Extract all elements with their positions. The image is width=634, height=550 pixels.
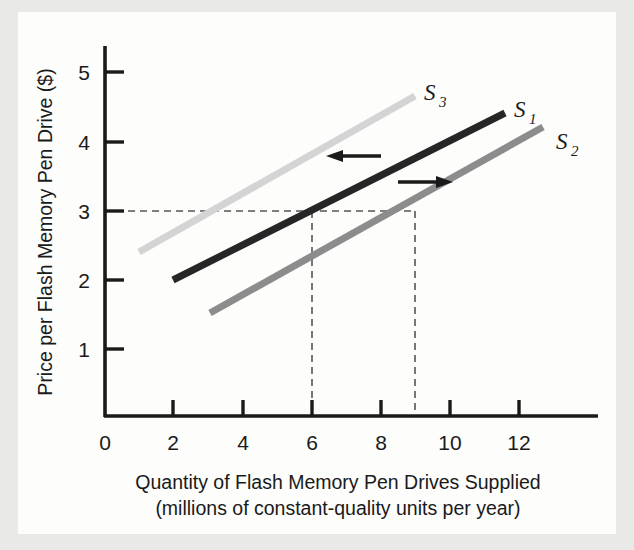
curve-label-s2-subscript: 2 — [571, 143, 579, 159]
x-tick-label-8: 8 — [375, 431, 387, 454]
curve-label-s3-base: S — [424, 80, 436, 105]
curve-label-s3-subscript: 3 — [438, 94, 447, 110]
curve-label-s2-base: S — [556, 129, 568, 154]
x-axis-title-line1: Quantity of Flash Memory Pen Drives Supp… — [135, 471, 540, 493]
x-tick-label-10: 10 — [438, 431, 461, 454]
supply-curve-chart: 5 4 3 2 1 0 2 4 6 8 10 12 S 3 — [18, 12, 616, 534]
x-axis-tick-labels: 0 2 4 6 8 10 12 — [99, 431, 531, 454]
curve-label-s3: S 3 — [424, 80, 447, 110]
x-tick-label-6: 6 — [306, 431, 318, 454]
y-tick-label-3: 3 — [78, 200, 90, 223]
x-tick-label-2: 2 — [167, 431, 179, 454]
curve-label-s1-subscript: 1 — [529, 111, 537, 127]
y-tick-label-2: 2 — [78, 269, 90, 292]
y-tick-label-4: 4 — [78, 131, 90, 154]
x-tick-label-4: 4 — [237, 431, 249, 454]
x-tick-label-12: 12 — [507, 431, 530, 454]
curve-label-s2: S 2 — [556, 129, 579, 159]
figure-card: 5 4 3 2 1 0 2 4 6 8 10 12 S 3 — [18, 12, 616, 534]
x-axis-ticks — [173, 400, 519, 416]
y-tick-label-1: 1 — [78, 338, 90, 361]
y-axis-ticks — [105, 72, 124, 349]
curve-label-s1: S 1 — [514, 97, 537, 127]
x-tick-label-0: 0 — [99, 431, 111, 454]
curve-label-s1-base: S — [514, 97, 526, 122]
x-axis-title-line2: (millions of constant-quality units per … — [155, 497, 520, 519]
rightward-shift-arrow — [398, 176, 453, 188]
leftward-shift-arrow — [326, 150, 381, 162]
y-axis-title: Price per Flash Memory Pen Drive ($) — [34, 68, 56, 395]
y-axis-tick-labels: 5 4 3 2 1 — [78, 61, 90, 361]
y-tick-label-5: 5 — [78, 61, 90, 84]
figure-page: 5 4 3 2 1 0 2 4 6 8 10 12 S 3 — [0, 0, 634, 550]
